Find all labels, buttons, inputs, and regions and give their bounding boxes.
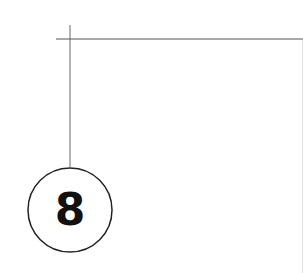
callout-number: 8 [28, 168, 112, 252]
